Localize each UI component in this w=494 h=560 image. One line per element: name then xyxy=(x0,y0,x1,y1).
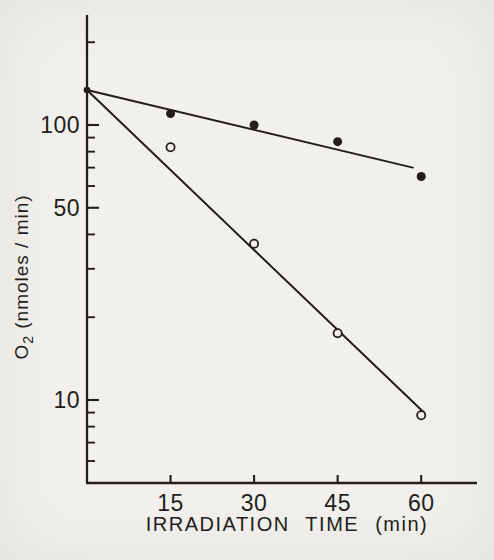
open-circles-point-30min xyxy=(250,240,258,248)
semilog-decay-figure: 1005010 15304560 IRRADIATION TIME (min) … xyxy=(0,0,494,560)
y-axis-title-base: O xyxy=(11,344,32,360)
y-axis-title-rest: (nmoles / min) xyxy=(11,194,32,335)
open-circles-fit-line xyxy=(87,90,424,413)
filled-circles-fit-line xyxy=(87,90,413,168)
plot-canvas: 1005010 15304560 IRRADIATION TIME (min) … xyxy=(0,0,494,560)
filled-circles-point-15min xyxy=(166,109,175,118)
filled-circles-point-45min xyxy=(333,137,342,146)
filled-circles-point-30min xyxy=(250,121,259,130)
y-tick-labels: 1005010 xyxy=(40,112,80,413)
open-circles-point-15min xyxy=(166,143,174,151)
y-tick-label-100: 100 xyxy=(40,112,80,138)
open-circles-point-60min xyxy=(417,411,425,419)
x-axis-title: IRRADIATION TIME (min) xyxy=(146,513,428,535)
open-circles-point-45min xyxy=(334,329,342,337)
y-axis-title: O2 (nmoles / min) xyxy=(11,194,36,359)
y-axis-title-subscript: 2 xyxy=(20,335,36,344)
y-tick-label-50: 50 xyxy=(53,195,80,221)
y-tick-label-10: 10 xyxy=(53,387,80,413)
common-intercept-point xyxy=(84,87,91,94)
filled-circles-point-60min xyxy=(417,172,426,181)
fit-lines xyxy=(87,90,424,413)
